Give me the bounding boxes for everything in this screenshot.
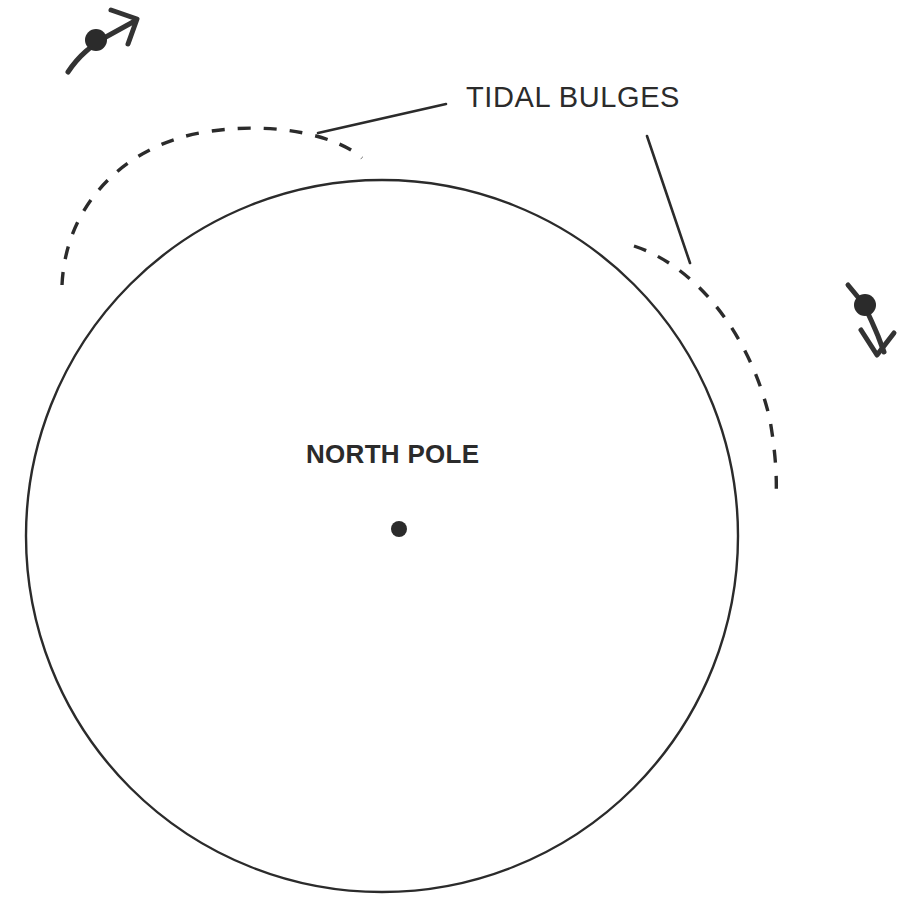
tidal-bulge-right bbox=[634, 246, 776, 500]
moon-marker-top-left bbox=[68, 10, 137, 72]
north-pole-point bbox=[391, 521, 407, 537]
earth-circle bbox=[26, 180, 738, 892]
tidal-bulge-upper-left bbox=[62, 128, 362, 285]
tidal-bulges-diagram: TIDAL BULGES NORTH POLE bbox=[0, 0, 913, 909]
leader-line-right bbox=[647, 136, 690, 263]
leader-line-left bbox=[318, 104, 446, 133]
tidal-bulges-label: TIDAL BULGES bbox=[466, 81, 680, 113]
moon-dot-top-left bbox=[85, 29, 107, 51]
moon-marker-right bbox=[848, 285, 894, 355]
diagram-canvas: TIDAL BULGES NORTH POLE bbox=[0, 0, 913, 909]
north-pole-label: NORTH POLE bbox=[306, 439, 479, 469]
moon-dot-right bbox=[854, 294, 876, 316]
